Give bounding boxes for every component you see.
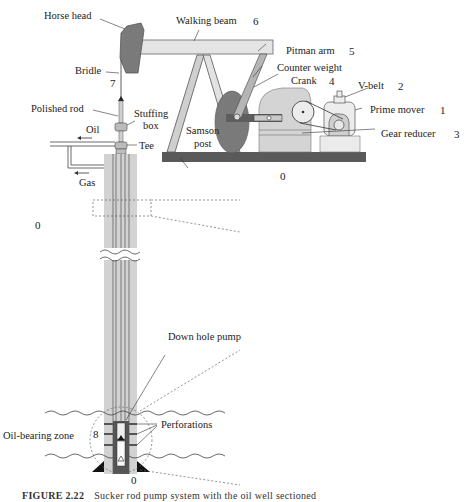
tee <box>115 142 127 149</box>
base-skid <box>162 152 366 162</box>
label-counter-weight: Counter weight <box>277 62 342 74</box>
break-symbol-upper <box>98 248 144 261</box>
label-pitman-arm: Pitman arm <box>286 45 335 57</box>
horse-head <box>120 23 144 73</box>
oil-arrow-icon <box>77 136 92 140</box>
label-samson-post-2: post <box>194 138 212 150</box>
carrier-bar <box>118 96 124 101</box>
label-crank: Crank <box>291 75 317 87</box>
figure-caption: FIGURE 2.22Sucker rod pump system with t… <box>22 490 316 502</box>
number-prime-mover: 1 <box>440 104 446 116</box>
label-bridle: Bridle <box>75 65 101 77</box>
stuffing-box <box>115 123 127 131</box>
label-oil: Oil <box>86 124 99 136</box>
label-polished-rod: Polished rod <box>31 103 84 115</box>
number-base: 0 <box>280 170 286 182</box>
label-walking-beam: Walking beam <box>176 15 237 27</box>
label-gear-reducer: Gear reducer <box>381 128 436 140</box>
prime-mover <box>320 91 360 152</box>
downhole-pump <box>113 421 129 474</box>
label-oil-bearing-zone: Oil-bearing zone <box>3 430 74 442</box>
label-horse-head: Horse head <box>44 10 92 22</box>
label-tee: Tee <box>139 140 154 152</box>
wrist-pin <box>234 114 240 120</box>
polished-rod <box>119 101 123 123</box>
number-walking-beam: 6 <box>253 15 259 27</box>
diagram-drawing <box>0 0 473 502</box>
number-bottom: 0 <box>131 474 137 486</box>
label-perforations: Perforations <box>161 419 212 431</box>
number-pitman-arm: 5 <box>349 45 355 57</box>
label-stuffing-box-2: box <box>143 120 159 132</box>
caption-text: Sucker rod pump system with the oil well… <box>94 490 316 501</box>
label-stuffing-box-1: Stuffing <box>134 108 168 120</box>
label-samson-post-1: Samson <box>186 125 219 137</box>
gas-arrow-icon <box>74 171 89 175</box>
pumpjack-diagram: Horse head Walking beam 6 Pitman arm 5 C… <box>0 0 473 502</box>
number-gear-reducer: 3 <box>454 128 460 140</box>
number-pump-zone: 8 <box>93 428 99 440</box>
label-v-belt: V-belt <box>358 80 384 92</box>
number-v-belt: 2 <box>398 80 404 92</box>
number-bridle: 7 <box>110 77 116 89</box>
label-down-hole-pump: Down hole pump <box>168 331 241 343</box>
label-gas: Gas <box>79 177 95 189</box>
walking-beam <box>140 40 273 54</box>
number-crank: 4 <box>329 75 335 87</box>
caption-label: FIGURE 2.22 <box>22 490 84 501</box>
number-surface-left: 0 <box>35 219 41 231</box>
label-prime-mover: Prime mover <box>370 104 425 116</box>
